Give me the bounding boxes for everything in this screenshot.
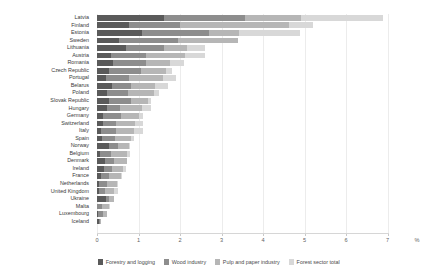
stacked-bar[interactable] bbox=[97, 22, 313, 28]
bar-segment[interactable] bbox=[97, 105, 107, 111]
bar-segment[interactable] bbox=[103, 121, 116, 127]
bar-row[interactable] bbox=[97, 127, 397, 135]
bar-segment[interactable] bbox=[109, 143, 118, 149]
stacked-bar[interactable] bbox=[97, 151, 130, 157]
bar-segment[interactable] bbox=[99, 181, 106, 187]
bar-segment[interactable] bbox=[111, 53, 146, 59]
stacked-bar[interactable] bbox=[97, 15, 383, 21]
bar-segment[interactable] bbox=[109, 204, 110, 210]
bar-segment[interactable] bbox=[97, 98, 109, 104]
bar-segment[interactable] bbox=[109, 98, 131, 104]
stacked-bar[interactable] bbox=[97, 53, 205, 59]
bar-segment[interactable] bbox=[112, 83, 131, 89]
stacked-bar[interactable] bbox=[97, 98, 151, 104]
bar-segment[interactable] bbox=[123, 166, 126, 172]
bar-segment[interactable] bbox=[178, 38, 239, 44]
bar-segment[interactable] bbox=[112, 166, 123, 172]
bar-segment[interactable] bbox=[97, 83, 112, 89]
bar-segment[interactable] bbox=[107, 90, 128, 96]
bar-segment[interactable] bbox=[114, 188, 118, 194]
stacked-bar[interactable] bbox=[97, 188, 118, 194]
bar-segment[interactable] bbox=[129, 22, 180, 28]
stacked-bar[interactable] bbox=[97, 219, 101, 225]
stacked-bar[interactable] bbox=[97, 45, 205, 51]
bar-row[interactable] bbox=[97, 89, 397, 97]
bar-segment[interactable] bbox=[97, 90, 107, 96]
bar-row[interactable] bbox=[97, 142, 397, 150]
bar-row[interactable] bbox=[97, 105, 397, 113]
bar-segment[interactable] bbox=[107, 181, 118, 187]
bar-segment[interactable] bbox=[148, 98, 151, 104]
bar-segment[interactable] bbox=[100, 151, 111, 157]
bar-segment[interactable] bbox=[105, 188, 114, 194]
bar-row[interactable] bbox=[97, 44, 397, 52]
bar-segment[interactable] bbox=[121, 173, 122, 179]
bar-segment[interactable] bbox=[129, 143, 131, 149]
legend-item[interactable]: Forestry and logging bbox=[98, 259, 155, 265]
stacked-bar[interactable] bbox=[97, 196, 114, 202]
stacked-bar[interactable] bbox=[97, 75, 176, 81]
bar-segment[interactable] bbox=[164, 15, 245, 21]
stacked-bar[interactable] bbox=[97, 166, 126, 172]
stacked-bar[interactable] bbox=[97, 38, 238, 44]
bar-segment[interactable] bbox=[114, 158, 127, 164]
bar-segment[interactable] bbox=[131, 83, 155, 89]
bar-row[interactable] bbox=[97, 180, 397, 188]
bar-segment[interactable] bbox=[111, 151, 127, 157]
bar-segment[interactable] bbox=[104, 166, 112, 172]
bar-segment[interactable] bbox=[102, 136, 114, 142]
bar-row[interactable] bbox=[97, 120, 397, 128]
bar-segment[interactable] bbox=[139, 113, 143, 119]
bar-segment[interactable] bbox=[170, 60, 184, 66]
stacked-bar[interactable] bbox=[97, 158, 127, 164]
bar-segment[interactable] bbox=[116, 121, 136, 127]
bar-segment[interactable] bbox=[141, 68, 167, 74]
bar-row[interactable] bbox=[97, 97, 397, 105]
bar-segment[interactable] bbox=[97, 166, 104, 172]
bar-row[interactable] bbox=[97, 37, 397, 45]
stacked-bar[interactable] bbox=[97, 173, 122, 179]
bar-segment[interactable] bbox=[142, 105, 151, 111]
bar-segment[interactable] bbox=[209, 30, 238, 36]
bar-segment[interactable] bbox=[119, 38, 178, 44]
bar-row[interactable] bbox=[97, 52, 397, 60]
bar-segment[interactable] bbox=[146, 60, 171, 66]
bar-row[interactable] bbox=[97, 210, 397, 218]
stacked-bar[interactable] bbox=[97, 113, 143, 119]
bar-segment[interactable] bbox=[97, 45, 126, 51]
bar-segment[interactable] bbox=[131, 136, 135, 142]
bar-segment[interactable] bbox=[97, 22, 129, 28]
bar-row[interactable] bbox=[97, 157, 397, 165]
bar-segment[interactable] bbox=[97, 30, 142, 36]
bar-segment[interactable] bbox=[120, 105, 142, 111]
bar-segment[interactable] bbox=[103, 211, 107, 217]
bar-segment[interactable] bbox=[109, 173, 121, 179]
bar-segment[interactable] bbox=[135, 121, 142, 127]
bar-row[interactable] bbox=[97, 203, 397, 211]
bar-row[interactable] bbox=[97, 112, 397, 120]
legend-item[interactable]: Wood industry bbox=[164, 259, 206, 265]
bar-segment[interactable] bbox=[128, 90, 154, 96]
bar-row[interactable] bbox=[97, 74, 397, 82]
bar-segment[interactable] bbox=[155, 83, 167, 89]
bar-segment[interactable] bbox=[101, 128, 116, 134]
bar-segment[interactable] bbox=[131, 98, 148, 104]
bar-segment[interactable] bbox=[164, 45, 188, 51]
bar-segment[interactable] bbox=[118, 143, 128, 149]
bar-segment[interactable] bbox=[113, 60, 146, 66]
stacked-bar[interactable] bbox=[97, 121, 143, 127]
stacked-bar[interactable] bbox=[97, 60, 184, 66]
bar-row[interactable] bbox=[97, 67, 397, 75]
stacked-bar[interactable] bbox=[97, 128, 143, 134]
bar-row[interactable] bbox=[97, 59, 397, 67]
bar-segment[interactable] bbox=[142, 30, 209, 36]
bar-segment[interactable] bbox=[127, 151, 130, 157]
legend-item[interactable]: Forest sector total bbox=[289, 259, 340, 265]
legend-item[interactable]: Pulp and paper industry bbox=[215, 259, 280, 265]
bar-row[interactable] bbox=[97, 29, 397, 37]
bar-segment[interactable] bbox=[97, 15, 164, 21]
bar-segment[interactable] bbox=[109, 196, 114, 202]
bar-row[interactable] bbox=[97, 188, 397, 196]
bar-row[interactable] bbox=[97, 195, 397, 203]
bar-segment[interactable] bbox=[116, 128, 133, 134]
